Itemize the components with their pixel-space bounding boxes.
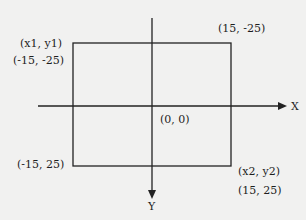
top-left-coords-label: (-15, -25) <box>13 54 64 67</box>
top-right-coords-label: (15, -25) <box>218 22 265 35</box>
bottom-left-coords-label: (-15, 25) <box>17 158 64 171</box>
top-left-name-label: (x1, y1) <box>20 37 62 50</box>
x-axis-label: X <box>291 100 299 113</box>
origin-label: (0, 0) <box>160 113 190 126</box>
bottom-right-name-label: (x2, y2) <box>238 165 280 178</box>
y-axis-arrow-icon <box>148 190 156 199</box>
coordinate-diagram: X Y (0, 0) (x1, y1) (-15, -25) (15, -25)… <box>0 0 306 220</box>
bottom-right-coords-label: (15, 25) <box>238 184 282 197</box>
x-axis-arrow-icon <box>278 102 287 110</box>
y-axis-label: Y <box>147 200 156 213</box>
